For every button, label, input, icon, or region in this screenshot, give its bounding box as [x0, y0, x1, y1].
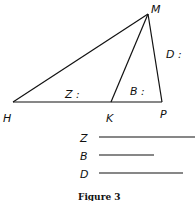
geometry-figure: M H K P Z : B : D : Z B D Figure 3	[0, 0, 196, 201]
point-label-K: K	[106, 112, 114, 125]
segment-label-Z: Z :	[64, 88, 80, 101]
point-label-P: P	[160, 108, 167, 121]
segment-label-D: D :	[166, 48, 182, 61]
legend-label-Z: Z	[79, 132, 88, 145]
point-label-M: M	[151, 3, 161, 16]
legend-label-B: B	[80, 150, 88, 163]
figure-caption: Figure 3	[78, 192, 121, 201]
legend-label-D: D	[80, 168, 88, 181]
point-label-H: H	[3, 112, 11, 125]
segment-HM	[13, 14, 148, 102]
segment-MP	[148, 14, 162, 102]
segment-label-B: B :	[130, 85, 145, 98]
